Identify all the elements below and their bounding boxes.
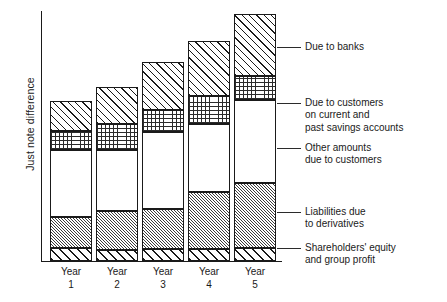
x-tick-label-5: Year5 <box>225 266 285 291</box>
legend-label-equity: Shareholders' equityand group profit <box>305 242 396 267</box>
bar-segment-savings <box>234 76 276 100</box>
bar-segment-banks <box>188 41 230 96</box>
legend-leader-line-derivatives <box>277 212 301 213</box>
legend-label-derivatives: Liabilities dueto derivatives <box>305 206 366 231</box>
y-axis-line <box>41 11 42 262</box>
legend-label-line: to derivatives <box>305 218 366 230</box>
x-axis-line <box>41 261 282 262</box>
legend-label-banks: Due to banks <box>305 41 364 53</box>
bar-segment-equity <box>188 249 230 261</box>
bar-segment-savings <box>96 124 138 150</box>
x-tick-line: Year <box>199 266 219 277</box>
legend-label-line: on current and <box>305 109 403 121</box>
bar-segment-other <box>188 124 230 192</box>
bar-segment-derivatives <box>96 211 138 250</box>
legend-label-other: Other amountsdue to customers <box>305 142 382 167</box>
bar-segment-savings <box>50 131 92 150</box>
bar-segment-equity <box>142 249 184 261</box>
y-axis-label: Just note difference <box>24 34 36 214</box>
legend-label-line: Due to customers <box>305 97 403 109</box>
legend-label-line: Due to banks <box>305 41 364 53</box>
bar-segment-derivatives <box>188 192 230 249</box>
legend-leader-line-other <box>277 148 301 149</box>
bar-segment-banks <box>142 62 184 110</box>
bar-segment-banks <box>50 101 92 131</box>
bar-segment-savings <box>188 96 230 124</box>
bar-2 <box>96 87 138 261</box>
legend-label-line: past savings accounts <box>305 122 403 134</box>
legend-label-line: Liabilities due <box>305 206 366 218</box>
legend-label-savings: Due to customerson current andpast savin… <box>305 97 403 134</box>
bar-segment-other <box>142 132 184 209</box>
legend-label-line: due to customers <box>305 154 382 166</box>
stacked-bar-chart: Just note difference Year1Year2Year3Year… <box>0 0 447 302</box>
legend-leader-line-banks <box>277 47 301 48</box>
bar-4 <box>188 41 230 261</box>
bar-segment-banks <box>234 14 276 76</box>
x-tick-line: Year <box>153 266 173 277</box>
bar-1 <box>50 101 92 261</box>
bar-segment-banks <box>96 87 138 124</box>
bar-segment-derivatives <box>50 217 92 248</box>
bar-segment-savings <box>142 110 184 132</box>
legend-label-line: and group profit <box>305 254 396 266</box>
bar-segment-derivatives <box>142 209 184 249</box>
x-tick-line: Year <box>61 266 81 277</box>
bar-5 <box>234 14 276 261</box>
bar-segment-other <box>50 150 92 217</box>
bar-segment-other <box>96 150 138 211</box>
legend-leader-line-savings <box>277 103 301 104</box>
x-tick-line: Year <box>245 266 265 277</box>
legend-leader-line-equity <box>277 248 301 249</box>
bar-segment-other <box>234 100 276 183</box>
bar-3 <box>142 62 184 261</box>
bar-segment-equity <box>96 250 138 261</box>
bar-segment-equity <box>234 248 276 261</box>
x-tick-line: Year <box>107 266 127 277</box>
bar-segment-equity <box>50 248 92 261</box>
bar-segment-derivatives <box>234 183 276 248</box>
legend-label-line: Other amounts <box>305 142 382 154</box>
x-tick-line: 5 <box>225 279 285 292</box>
legend-label-line: Shareholders' equity <box>305 242 396 254</box>
